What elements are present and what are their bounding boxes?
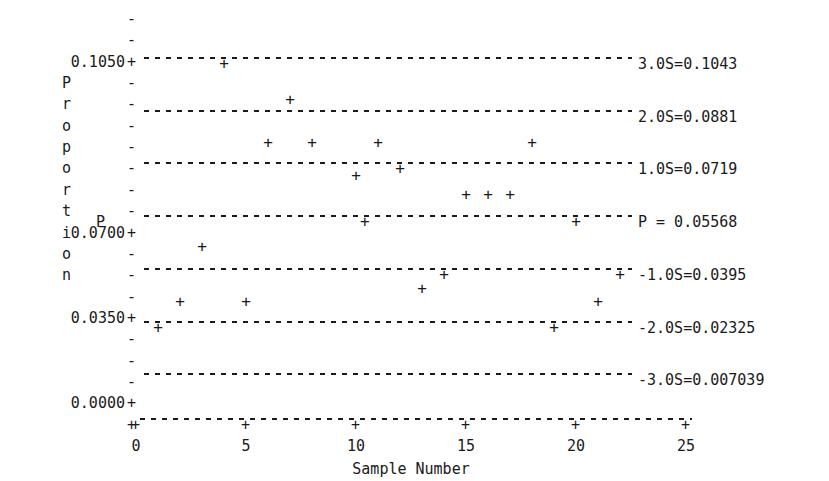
y-axis-minor-tick: - [127,247,136,262]
y-axis-minor-tick: - [127,183,136,198]
x-axis-tick-label: 0 [111,439,161,454]
data-point: + [197,239,207,255]
y-axis-minor-tick: - [127,161,136,176]
y-axis-minor-tick: - [127,332,136,347]
data-point: + [241,294,251,310]
control-limit-line-3.0S [144,57,632,59]
data-point: + [153,320,163,336]
y-axis-minor-tick: - [127,33,136,48]
y-axis-tick-label: 0.0000 [55,396,125,411]
data-point: + [395,161,405,177]
y-axis-major-tick: + [127,311,136,326]
data-point: + [593,294,603,310]
control-limit-label--2.0S: -2.0S=0.02325 [638,321,755,336]
y-axis-label-char-8: o [62,247,71,262]
y-axis-minor-tick: - [127,268,136,283]
x-axis-tick-20: + [571,418,580,433]
control-limit-label-P: P = 0.05568 [638,215,737,230]
center-line-marker-label: P [96,215,105,230]
control-limit-label--1.0S: -1.0S=0.0395 [638,268,746,283]
x-axis-tick-15: + [461,418,470,433]
control-limit-line-2.0S [144,110,632,112]
y-axis-minor-tick: - [127,375,136,390]
data-point: + [549,320,559,336]
y-axis-label-char-1: r [62,97,71,112]
data-point: + [351,168,361,184]
x-axis-tick-label: 25 [661,439,711,454]
data-point: + [175,294,185,310]
y-axis-major-tick: + [127,396,136,411]
data-point: + [571,214,581,230]
y-axis-tick-label: 0.1050 [55,55,125,70]
control-limit-label-1.0S: 1.0S=0.0719 [638,162,737,177]
y-axis-minor-tick: - [127,354,136,369]
control-limit-label-3.0S: 3.0S=0.1043 [638,57,737,72]
control-limit-line--3.0S [144,373,632,375]
control-limit-line-P [144,215,632,217]
y-axis-minor-tick: - [127,76,136,91]
x-axis-tick-label: 20 [551,439,601,454]
data-point: + [307,135,317,151]
y-axis-label-char-9: n [62,268,71,283]
y-axis-minor-tick: - [127,97,136,112]
data-point: + [505,187,515,203]
y-axis-label-char-3: p [62,140,71,155]
y-axis-tick-label: 0.0350 [55,311,125,326]
y-axis-label-char-5: r [62,183,71,198]
x-axis-tick-5: + [241,418,250,433]
data-point: + [285,92,295,108]
control-limit-line--1.0S [144,268,632,270]
x-axis-title: Sample Number [281,462,541,477]
data-point: + [615,267,625,283]
data-point: + [483,187,493,203]
data-point: + [439,267,449,283]
data-point: + [417,281,427,297]
data-point: + [360,214,370,230]
data-point: + [461,187,471,203]
control-limit-line-1.0S [144,162,632,164]
data-point: + [219,56,229,72]
y-axis-minor-tick: - [127,204,136,219]
y-axis-minor-tick: - [127,140,136,155]
y-axis-label-char-4: o [62,161,71,176]
x-axis-tick-label: 10 [331,439,381,454]
y-axis-major-tick: + [127,226,136,241]
y-axis-label-char-2: o [62,119,71,134]
p-control-chart: Proportion--+0.1050-------+0.0700---+0.0… [0,0,829,481]
y-axis-tick-label: 0.0700 [55,226,125,241]
y-axis-label-char-0: P [62,76,71,91]
y-axis-minor-tick: - [127,119,136,134]
x-axis-tick-label: 15 [441,439,491,454]
y-axis-label-char-6: t [62,204,71,219]
data-point: + [527,135,537,151]
y-axis-major-tick: + [127,55,136,70]
x-axis-tick-label: 5 [221,439,271,454]
data-point: + [373,135,383,151]
data-point: + [263,135,273,151]
control-limit-label--3.0S: -3.0S=0.007039 [638,373,764,388]
x-axis-tick-10: + [351,418,360,433]
x-axis-tick-0: + [131,418,140,433]
x-axis-line [140,418,692,420]
x-axis-tick-25: + [681,418,690,433]
y-axis-minor-tick: - [127,290,136,305]
control-limit-label-2.0S: 2.0S=0.0881 [638,110,737,125]
y-axis-minor-tick: - [127,12,136,27]
